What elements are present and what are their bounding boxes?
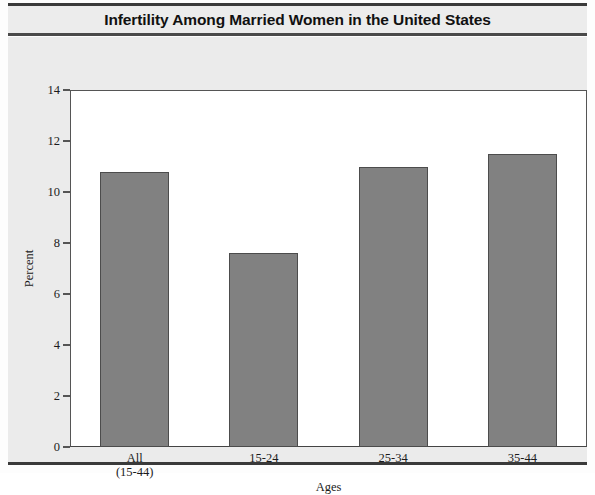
x-axis-tick-label: All(15-44): [70, 451, 199, 479]
y-axis: 02468101214: [8, 90, 70, 447]
y-axis-tick-label: 10: [48, 185, 64, 198]
y-axis-title-label: Percent: [23, 250, 38, 287]
y-axis-tick-mark: [63, 191, 70, 193]
title-underline-rule: [8, 33, 587, 36]
y-axis-tick-label: 8: [54, 236, 63, 249]
plot-area: [70, 90, 587, 447]
y-axis-tick-label: 0: [54, 440, 63, 453]
y-axis-tick-label: 2: [54, 389, 63, 402]
title-band: Infertility Among Married Women in the U…: [8, 6, 587, 33]
y-axis-tick-label: 4: [54, 338, 63, 351]
y-axis-tick-mark: [63, 242, 70, 244]
x-axis-tick-label-line2: (15-44): [70, 465, 199, 479]
y-axis-tick-mark: [63, 344, 70, 346]
x-axis-title-label: Ages: [70, 480, 587, 495]
y-axis-tick-mark: [63, 395, 70, 397]
y-axis-tick-mark: [63, 293, 70, 295]
y-axis-tick-mark: [63, 446, 70, 448]
y-axis-tick-mark: [63, 89, 70, 91]
y-axis-title: Percent: [22, 90, 38, 447]
y-axis-tick-label: 14: [48, 83, 64, 96]
y-axis-tick-label: 12: [48, 134, 64, 147]
y-axis-tick-label: 6: [54, 287, 63, 300]
bottom-divider-rule: [8, 462, 587, 465]
page-title: Infertility Among Married Women in the U…: [104, 11, 491, 29]
chart-panel: 02468101214 Percent All(15-44)15-2425-34…: [8, 37, 587, 462]
y-axis-tick-mark: [63, 140, 70, 142]
